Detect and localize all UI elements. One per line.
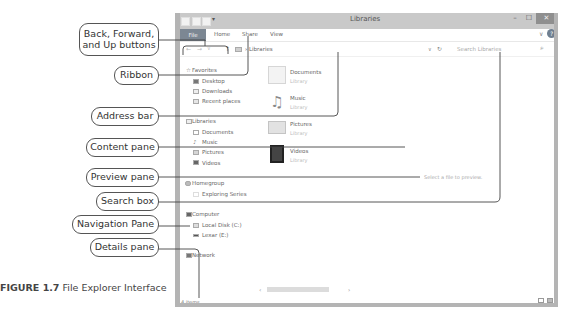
callout-back-forward-up: Back, Forward, and Up buttons bbox=[79, 23, 159, 56]
callout-line-search-box bbox=[158, 52, 500, 202]
callout-details-pane: Details pane bbox=[90, 238, 159, 257]
callout-content-pane: Content pane bbox=[86, 138, 159, 157]
callout-text: and Up buttons bbox=[82, 40, 155, 51]
callout-line-ribbon bbox=[158, 36, 248, 75]
callout-line-back-forward bbox=[158, 40, 205, 46]
figure-title: File Explorer Interface bbox=[59, 282, 166, 293]
callout-text: Back, Forward, bbox=[84, 29, 154, 40]
callout-navigation-pane: Navigation Pane bbox=[72, 215, 159, 234]
callout-preview-pane: Preview pane bbox=[86, 168, 159, 187]
callout-search-box: Search box bbox=[96, 192, 159, 211]
callout-bracket-back-forward bbox=[183, 46, 228, 55]
figure-number: FIGURE 1.7 bbox=[0, 282, 59, 293]
figure-caption: FIGURE 1.7 File Explorer Interface bbox=[0, 281, 175, 294]
callout-ribbon: Ribbon bbox=[114, 66, 159, 85]
callout-address-bar: Address bar bbox=[91, 107, 159, 126]
